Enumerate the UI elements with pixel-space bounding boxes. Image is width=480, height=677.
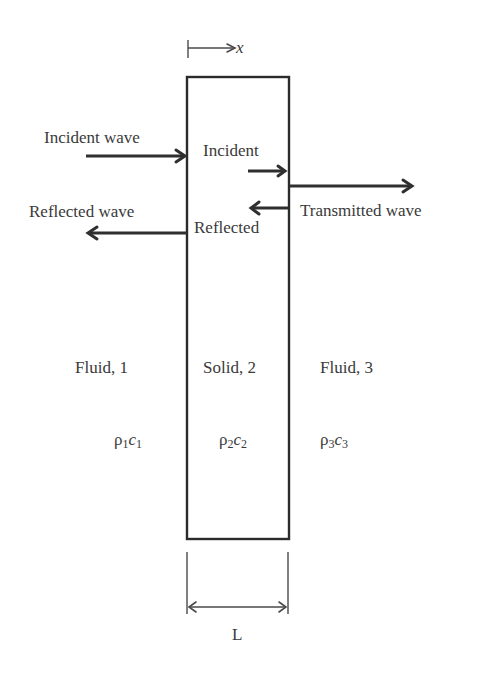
reflected-inner-wave: Reflected <box>194 202 288 237</box>
reflected-inner-label: Reflected <box>194 218 260 237</box>
transmitted-wave-label: Transmitted wave <box>300 201 422 220</box>
x-axis-label: x <box>235 38 244 57</box>
impedance-1: ρ1c1 <box>114 430 142 451</box>
thickness-label: L <box>232 625 242 644</box>
incident-inner-label: Incident <box>203 141 259 160</box>
impedance-2: ρ2c2 <box>219 430 247 451</box>
incident-wave: Incident wave <box>44 128 185 162</box>
reflected-wave: Reflected wave <box>29 202 187 239</box>
region-fluid-1-label: Fluid, 1 <box>75 358 128 377</box>
incident-wave-label: Incident wave <box>44 128 140 147</box>
x-axis-marker: x <box>188 38 244 58</box>
thickness-dimension: L <box>187 552 288 644</box>
reflected-wave-label: Reflected wave <box>29 202 134 221</box>
transmitted-wave: Transmitted wave <box>289 180 422 220</box>
region-solid-2-label: Solid, 2 <box>203 358 256 377</box>
region-fluid-3-label: Fluid, 3 <box>320 358 373 377</box>
impedance-3: ρ3c3 <box>320 430 348 451</box>
wave-transmission-diagram: x Incident wave Reflected wave Incident … <box>0 0 480 677</box>
incident-inner-wave: Incident <box>203 141 285 176</box>
